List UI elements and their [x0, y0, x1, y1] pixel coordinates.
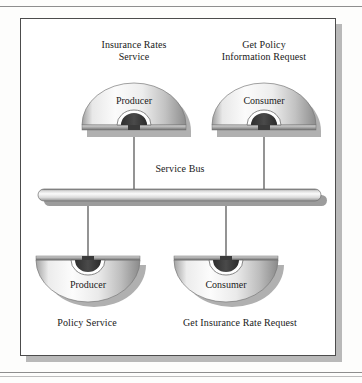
node-top-left-producer[interactable]	[82, 83, 191, 137]
caption-get-policy-information-request: Get Policy Information Request	[198, 39, 330, 63]
node-top-right-consumer[interactable]	[212, 83, 321, 137]
node-role-top-right: Consumer	[212, 95, 316, 106]
node-role-bottom-left: Producer	[30, 279, 146, 290]
node-role-bottom-right: Consumer	[168, 279, 284, 290]
caption-insurance-rates-service: Insurance Rates Service	[74, 39, 194, 63]
service-bus-bar[interactable]	[38, 189, 327, 206]
caption-get-insurance-rate-request: Get Insurance Rate Request	[152, 317, 328, 329]
node-role-top-left: Producer	[82, 95, 186, 106]
diagram-figure: Insurance Rates Service Get Policy Infor…	[0, 0, 362, 383]
caption-policy-service: Policy Service	[22, 317, 152, 329]
service-bus-label: Service Bus	[120, 163, 240, 175]
